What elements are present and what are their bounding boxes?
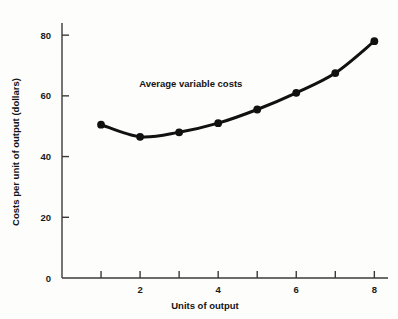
x-axis-tick-label: 4 [216, 284, 222, 295]
x-axis-tick-label: 8 [372, 284, 377, 295]
y-axis-tick-label: 40 [40, 151, 51, 162]
x-axis: 2468 [62, 271, 388, 295]
x-axis-tick-label: 2 [137, 284, 142, 295]
data-series-average-variable-costs [97, 37, 378, 140]
data-point-marker [214, 119, 222, 127]
data-point-marker [292, 89, 300, 97]
data-point-marker [136, 133, 144, 141]
data-point-marker [331, 69, 339, 77]
data-point-marker [97, 121, 105, 129]
y-axis-tick-label: 0 [46, 273, 51, 284]
y-axis-tick-label: 60 [40, 90, 51, 101]
y-axis-title: Costs per unit of output (dollars) [10, 78, 21, 226]
series-line [101, 41, 374, 137]
x-axis-title: Units of output [171, 300, 239, 311]
x-axis-tick-label: 6 [294, 284, 299, 295]
y-axis-tick-label: 80 [40, 30, 51, 41]
chart-annotations: Average variable costs [139, 78, 242, 89]
data-point-marker [253, 106, 261, 114]
data-point-marker [175, 128, 183, 136]
data-point-marker [370, 37, 378, 45]
series-label-average-variable-costs: Average variable costs [139, 78, 242, 89]
y-axis: 020406080 [40, 23, 69, 284]
chart-figure: 020406080 2468 Average variable costs Co… [0, 0, 398, 319]
chart-canvas: 020406080 2468 Average variable costs Co… [0, 0, 398, 319]
y-axis-tick-label: 20 [40, 212, 51, 223]
